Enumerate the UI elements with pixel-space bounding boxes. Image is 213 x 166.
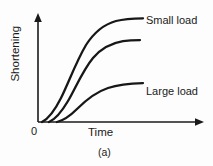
curve-small-load [42,18,143,122]
figure-caption: (a) [98,147,111,158]
y-axis-arrow-icon [34,13,42,22]
curve-large-load [57,83,143,122]
y-axis [34,13,42,122]
curve-medium-load [49,40,140,122]
series-label-large-load: Large load [146,86,198,97]
origin-label: 0 [31,126,37,137]
x-axis-arrow-icon [195,118,204,126]
x-axis-label: Time [88,127,113,139]
y-axis-label: Shortening [10,19,22,89]
figure-container: Small load Large load Shortening Time 0 … [0,0,213,166]
series-label-small-load: Small load [146,15,197,26]
